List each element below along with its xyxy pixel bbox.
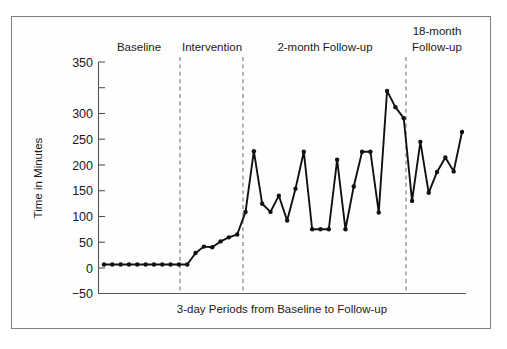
data-point bbox=[218, 239, 222, 243]
phase-label-18month-followup-line1: 18-month bbox=[413, 25, 462, 37]
phase-label-baseline: Baseline bbox=[117, 41, 161, 53]
y-axis-title: Time in Minutes bbox=[32, 137, 44, 218]
data-point bbox=[293, 187, 297, 191]
data-point bbox=[368, 150, 372, 154]
data-point bbox=[168, 262, 172, 266]
data-point bbox=[352, 184, 356, 188]
data-point bbox=[393, 105, 397, 109]
y-tick-label-250: 250 bbox=[72, 133, 93, 147]
data-point bbox=[327, 227, 331, 231]
data-point bbox=[127, 262, 131, 266]
data-point bbox=[377, 210, 381, 214]
data-point bbox=[202, 244, 206, 248]
y-tick-label-100: 100 bbox=[72, 210, 93, 224]
y-tick-label-150: 150 bbox=[72, 184, 93, 198]
data-point bbox=[210, 245, 214, 249]
data-point bbox=[318, 227, 322, 231]
data-point bbox=[302, 150, 306, 154]
data-series-line bbox=[104, 91, 462, 265]
data-point bbox=[335, 158, 339, 162]
phase-label-18month-followup-line2: Follow-up bbox=[412, 41, 462, 53]
y-tick-label-50: 50 bbox=[79, 236, 93, 250]
y-tick-label-neg50: −50 bbox=[72, 287, 93, 301]
data-point bbox=[135, 262, 139, 266]
data-point bbox=[102, 262, 106, 266]
data-point bbox=[343, 227, 347, 231]
phase-label-2month-followup: 2-month Follow-up bbox=[277, 41, 372, 53]
data-point bbox=[285, 218, 289, 222]
data-point bbox=[227, 235, 231, 239]
phase-label-intervention: Intervention bbox=[182, 41, 242, 53]
data-point bbox=[427, 191, 431, 195]
y-tick-label-200: 200 bbox=[72, 159, 93, 173]
data-point bbox=[243, 210, 247, 214]
data-point bbox=[277, 193, 281, 197]
y-tick-label-350: 350 bbox=[72, 56, 93, 70]
y-tick-label-300: 300 bbox=[72, 107, 93, 121]
data-point bbox=[310, 227, 314, 231]
data-point bbox=[443, 155, 447, 159]
data-point bbox=[118, 262, 122, 266]
figure-container: 350 300 250 200 150 100 50 0 −50 Time in… bbox=[0, 0, 507, 349]
data-point bbox=[185, 262, 189, 266]
y-tick-label-0: 0 bbox=[86, 262, 93, 276]
data-point bbox=[402, 116, 406, 120]
data-point bbox=[252, 149, 256, 153]
data-point bbox=[460, 130, 464, 134]
data-point bbox=[418, 140, 422, 144]
data-point bbox=[193, 251, 197, 255]
data-point bbox=[160, 262, 164, 266]
data-point bbox=[268, 210, 272, 214]
data-point bbox=[177, 262, 181, 266]
line-chart-plot: 350 300 250 200 150 100 50 0 −50 Time in… bbox=[0, 0, 507, 349]
phase-divider-group bbox=[180, 57, 406, 294]
x-axis-title: 3-day Periods from Baseline to Follow-up bbox=[177, 303, 387, 315]
data-point bbox=[435, 170, 439, 174]
data-point bbox=[143, 262, 147, 266]
data-point bbox=[360, 150, 364, 154]
data-point bbox=[451, 169, 455, 173]
data-point bbox=[260, 202, 264, 206]
data-point bbox=[235, 232, 239, 236]
data-point bbox=[385, 89, 389, 93]
data-point bbox=[410, 199, 414, 203]
y-axis-tickmarks bbox=[99, 62, 106, 294]
data-point bbox=[110, 262, 114, 266]
data-point bbox=[152, 262, 156, 266]
